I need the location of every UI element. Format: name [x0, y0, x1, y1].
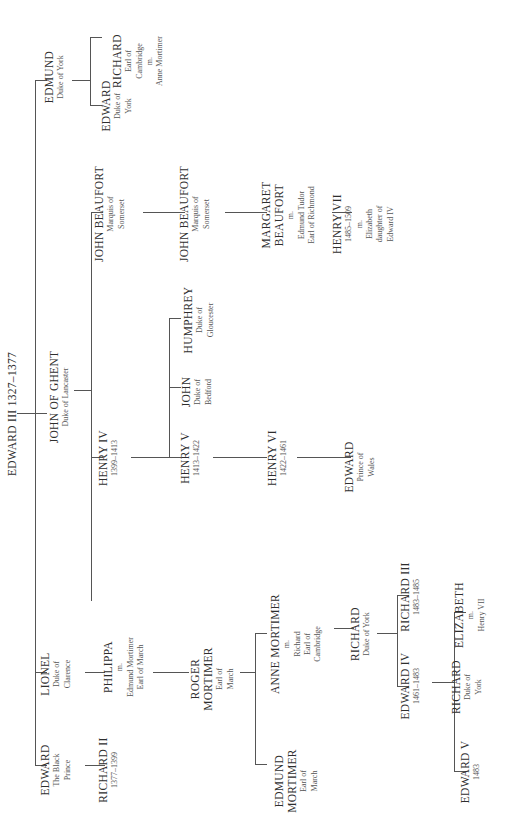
person-richard-earl-of-cambridge: RICHARD Earl of Cambridge m. Anne Mortim… — [111, 23, 173, 99]
person-title: Wales — [367, 437, 377, 497]
marriage-marker: m. — [286, 175, 296, 255]
person-title: Prince of — [356, 437, 366, 497]
person-roger-mortimer: ROGER MORTIMER Earl of March — [189, 641, 247, 717]
person-name: JOHN — [180, 364, 193, 420]
person-richard-iii: RICHARD III 1483–1485 — [399, 556, 431, 638]
person-name: HENRY VI — [266, 425, 279, 491]
person-richard-ii: RICHARD II 1377–1399 — [97, 735, 129, 805]
person-title: York — [474, 655, 484, 719]
person-title: March — [226, 641, 236, 717]
connector — [131, 457, 169, 458]
person-name: PHILIPPA — [102, 622, 115, 712]
person-name: EDWARD — [343, 437, 356, 497]
person-title: Duke of — [193, 364, 203, 420]
person-title: Earl of — [124, 23, 134, 99]
reign-dates: 1422–1461 — [279, 425, 289, 491]
person-name: ANNE MORTIMER — [269, 587, 282, 701]
person-name: EDMUND — [43, 42, 56, 112]
person-title: Cambridge — [135, 23, 145, 99]
spouse-name: Henry VII — [477, 577, 487, 653]
person-edward-black-prince: EDWARD The Black Prince — [39, 740, 83, 800]
person-title: March — [310, 743, 320, 819]
connector — [255, 633, 256, 764]
person-name: HENRY IV — [97, 423, 110, 493]
connector — [90, 37, 91, 105]
person-name: ELIZABETH — [453, 577, 466, 653]
person-name-line2: MORTIMER — [202, 641, 215, 717]
marriage-marker: m. — [145, 23, 155, 99]
person-name: HENRY V — [179, 425, 192, 491]
person-title: Gloucester — [206, 283, 216, 357]
spouse-title: Earl of — [303, 587, 313, 701]
person-name: EDWARD — [39, 740, 52, 800]
connector — [91, 212, 92, 601]
person-title: Duke of — [195, 283, 205, 357]
reign-dates: 1461–1483 — [412, 648, 422, 724]
person-humphrey: HUMPHREY Duke of Gloucester — [182, 283, 226, 357]
connector — [35, 413, 47, 414]
connector — [169, 318, 170, 458]
person-title: Duke of York — [362, 599, 372, 669]
connector — [255, 764, 267, 765]
reign-dates: 1485–1509 — [344, 189, 354, 259]
person-richard-duke-of-york-young: RICHARD Duke of York — [450, 655, 494, 719]
person-henry-vi: HENRY VI 1422–1461 — [266, 425, 298, 491]
connector — [153, 672, 189, 673]
person-lionel: LIONEL Duke of Clarence — [39, 644, 83, 704]
person-henry-iv: HENRY IV 1399–1413 — [97, 423, 129, 493]
person-edmund-mortimer: EDMUND MORTIMER Earl of March — [273, 743, 331, 819]
connector — [169, 318, 181, 319]
person-name: JOHN BEAUFORT — [93, 159, 106, 269]
person-edward-prince-of-wales: EDWARD Prince of Wales — [343, 437, 387, 497]
person-title: Marquis of — [106, 159, 116, 269]
connector — [213, 457, 267, 458]
person-title: Clarence — [63, 644, 73, 704]
person-name: RICHARD — [450, 655, 463, 719]
person-margaret-beaufort: MARGARET BEAUFORT m. Edmund Tudor Earl o… — [260, 175, 328, 255]
person-name: ROGER — [189, 641, 202, 717]
person-name: HENRY VII — [331, 189, 344, 259]
connector — [90, 37, 102, 38]
reign-dates: 1399–1413 — [110, 423, 120, 493]
person-name: HUMPHREY — [182, 283, 195, 357]
spouse-name: Elizabeth — [365, 189, 375, 259]
person-anne-mortimer: ANNE MORTIMER m. Richard Earl of Cambrid… — [269, 587, 337, 701]
person-edward-v: EDWARD V 1483 — [459, 737, 491, 807]
marriage-marker: m. — [355, 189, 365, 259]
person-name: EDWARD V — [459, 737, 472, 807]
spouse-name: Anne Mortimer — [155, 23, 165, 99]
person-title: Earl of — [215, 641, 225, 717]
spouse-title: Edward IV — [386, 189, 396, 259]
person-richard-duke-of-york: RICHARD Duke of York — [349, 599, 381, 669]
person-name-line2: MORTIMER — [286, 743, 299, 819]
spouse-name: Edmund Tudor — [297, 175, 307, 255]
person-henry-v: HENRY V 1413–1422 — [179, 425, 211, 491]
reign-dates: 1377–1399 — [110, 735, 120, 805]
spouse-title: daughter of — [375, 189, 385, 259]
person-name: RICHARD II — [97, 735, 110, 805]
spouse-name: Edmund Mortimer — [126, 622, 136, 712]
person-title: Prince — [63, 740, 73, 800]
person-name: EDWARD IV — [399, 648, 412, 724]
person-title: Duke of Lancaster — [61, 342, 71, 452]
person-edward-iv: EDWARD IV 1461–1483 — [399, 648, 431, 724]
person-title: Duke of — [463, 655, 473, 719]
person-edmund-duke-of-york: EDMUND Duke of York — [43, 42, 77, 112]
person-title: The Black — [52, 740, 62, 800]
reign-dates: 1483–1485 — [412, 556, 422, 638]
person-name: LIONEL — [39, 644, 52, 704]
person-philippa: PHILIPPA m. Edmund Mortimer Earl of Marc… — [102, 622, 156, 712]
person-name: JOHN OF GHENT — [48, 342, 61, 452]
connector — [35, 80, 36, 766]
person-title: Earl of — [299, 743, 309, 819]
person-name: RICHARD — [349, 599, 362, 669]
person-name: EDMUND — [273, 743, 286, 819]
reign-dates: 1483 — [472, 737, 482, 807]
connector — [397, 595, 398, 686]
marriage-marker: m. — [466, 577, 476, 653]
person-title: Somerset — [202, 159, 212, 269]
spouse-name: Richard — [293, 587, 303, 701]
connector — [255, 633, 267, 634]
person-name: RICHARD — [111, 23, 124, 99]
person-title: Bedford — [204, 364, 214, 420]
